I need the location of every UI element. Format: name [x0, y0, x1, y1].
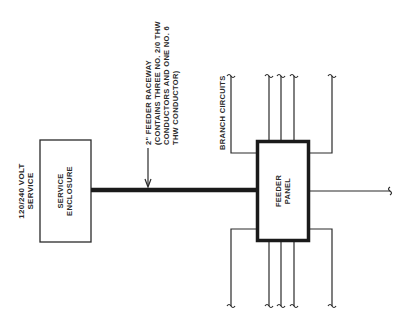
- feeder-callout-line3: CONDUCTORS AND ONE NO. 6: [162, 26, 171, 145]
- branch-circuits-label: BRANCH CIRCUITS: [218, 76, 227, 151]
- branch-top-right: [310, 76, 332, 153]
- service-voltage-label: 120/240 VOLT SERVICE: [17, 163, 35, 218]
- feeder-callout-line2: (CONTAINS THREE NO. 2/0 THW: [153, 21, 162, 145]
- feeder-callout-line1: 2" FEEDER RACEWAY: [144, 60, 153, 145]
- service-enclosure: SERVICE ENCLOSURE: [40, 140, 91, 242]
- branch-circuit-right: [310, 187, 392, 195]
- feeder-panel: FEEDER PANEL: [258, 142, 309, 241]
- branch-top-left: [231, 76, 256, 153]
- feeder-diagram: 120/240 VOLT SERVICE SERVICE ENCLOSURE 2…: [0, 0, 415, 324]
- service-voltage-line1: 120/240 VOLT: [17, 163, 26, 218]
- service-enclosure-line1: SERVICE: [56, 174, 65, 209]
- service-enclosure-line2: ENCLOSURE: [65, 166, 74, 216]
- feeder-callout-line4: THW CONDUCTOR): [171, 70, 180, 145]
- branch-bottom-left: [231, 229, 256, 306]
- branch-bottom-right: [310, 229, 332, 306]
- feeder-callout-arrow: [145, 148, 151, 187]
- feeder-panel-line1: FEEDER: [274, 175, 283, 208]
- service-voltage-line2: SERVICE: [26, 172, 35, 209]
- feeder-panel-line2: PANEL: [283, 178, 292, 204]
- feeder-raceway-callout: 2" FEEDER RACEWAY (CONTAINS THREE NO. 2/…: [144, 21, 180, 145]
